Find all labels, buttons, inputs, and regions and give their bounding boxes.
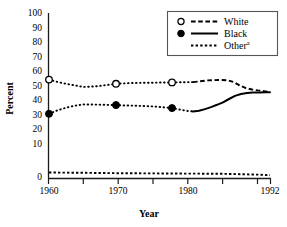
x-tick-label-1980: 1980	[168, 186, 208, 196]
x-tick-label-1970: 1970	[98, 186, 138, 196]
y-tick-label-10: 10	[16, 139, 42, 149]
y-tick-label-40: 40	[16, 95, 42, 105]
y-tick-label-90: 90	[16, 23, 42, 33]
chart-figure: 100 90 80 70 60 50 40 30 20 10 0 1960 19…	[0, 0, 287, 227]
y-tick-label-100: 100	[16, 8, 42, 18]
x-tick-label-1960: 1960	[29, 186, 69, 196]
y-tick-label-80: 80	[16, 37, 42, 47]
legend-marker-black	[178, 30, 185, 37]
series-line-other	[49, 173, 270, 176]
y-tick-label-20: 20	[16, 124, 42, 134]
legend-footnote-marker-a: a	[247, 38, 250, 45]
y-axis-title: Percent	[4, 71, 15, 127]
y-tick-label-50: 50	[16, 81, 42, 91]
y-tick-label-0: 0	[16, 172, 42, 182]
x-axis-title: Year	[119, 208, 179, 219]
series-line-white-reported	[193, 80, 270, 92]
legend-marker-white	[178, 18, 184, 24]
legend-label-other: Othera	[224, 40, 250, 51]
series-line-black-reported	[193, 92, 270, 111]
x-axis-ticks	[49, 179, 271, 185]
legend-label-other-text: Other	[224, 40, 247, 51]
legend-label-white: White	[224, 16, 248, 27]
y-tick-label-30: 30	[16, 110, 42, 120]
x-tick-label-1992: 1992	[250, 186, 287, 196]
legend-label-black: Black	[224, 28, 247, 39]
y-tick-label-60: 60	[16, 66, 42, 76]
series-markers-black	[46, 102, 176, 118]
y-tick-label-70: 70	[16, 52, 42, 62]
